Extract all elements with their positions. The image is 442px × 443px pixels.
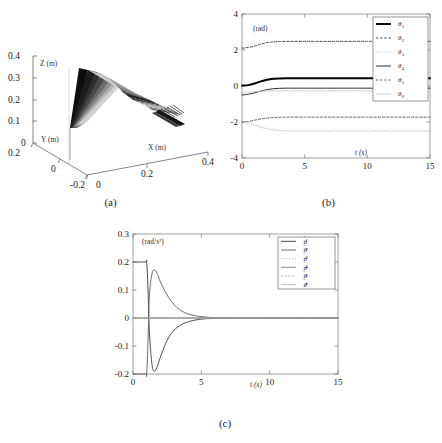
y-tick-label: -4 (231, 153, 239, 163)
panel-a-y-axis-label: Y (m) (41, 135, 59, 144)
figure-root: 0.4 0.3 0.2 0.1 0 Z (m) 0.2 0 -0.2 Y (m)… (0, 0, 442, 443)
panel-a-z-tick-2: 0.2 (8, 95, 20, 105)
x-tick-label: 5 (199, 377, 204, 387)
panel-a-z-tick-0: 0.4 (8, 51, 20, 61)
x-tick-label: 15 (426, 161, 436, 171)
panel-a-z-tick-3: 0.1 (8, 116, 20, 126)
legend-box (373, 17, 428, 101)
panel-a-x-tick-1: 0.2 (141, 169, 153, 179)
series-line-3 (242, 122, 430, 131)
panel-c-svg: 051015-0.2-0.100.10.20.3θ¨1θ¨2θ¨3θ¨4θ¨5θ… (100, 214, 350, 419)
y-tick-label: 0 (125, 313, 130, 323)
y-tick-label: 2 (234, 45, 239, 55)
panel-c-unit-label: (rad/s²) (142, 237, 164, 246)
y-tick-label: -0.2 (115, 369, 129, 379)
panel-a-y-tick-0: 0.2 (8, 148, 20, 158)
y-tick-label: 0.1 (118, 285, 129, 295)
y-tick-label: 0.3 (118, 229, 130, 239)
panel-c-joint-accelerations-plot: 051015-0.2-0.100.10.20.3θ¨1θ¨2θ¨3θ¨4θ¨5θ… (100, 214, 350, 443)
panel-a-x-tick-2: 0.4 (202, 157, 214, 167)
panel-a-z-tick-4: 0 (21, 138, 26, 148)
panel-a-z-tick-1: 0.3 (8, 73, 20, 83)
y-tick-label: 4 (234, 9, 239, 19)
y-tick-label: 0 (234, 81, 239, 91)
series-line-5 (242, 117, 430, 122)
x-tick-label: 0 (240, 161, 245, 171)
x-tick-label: 15 (334, 377, 344, 387)
manipulator-trace (70, 68, 185, 160)
x-tick-label: 10 (363, 161, 373, 171)
panel-a-3d-plot: 0.4 0.3 0.2 0.1 0 Z (m) 0.2 0 -0.2 Y (m)… (0, 0, 221, 221)
panel-b-caption: (b) (215, 196, 442, 208)
panel-c-caption: (c) (100, 417, 350, 429)
x-tick-label: 10 (265, 377, 275, 387)
panel-b-x-axis-label: t (s) (355, 148, 367, 157)
panel-c-x-axis-label: t (s) (250, 380, 262, 389)
x-tick-label: 0 (131, 377, 136, 387)
z-ticks (33, 56, 37, 143)
panel-a-x-tick-0: 0 (96, 180, 101, 190)
axis-frame-3d (33, 56, 208, 175)
panel-a-z-axis-label: Z (m) (40, 59, 57, 68)
panel-a-y-tick-2: -0.2 (70, 180, 85, 190)
x-tick-label: 5 (302, 161, 307, 171)
panel-b-joint-angles-plot: 051015-4-2024θ1θ2θ3θ4θ5θ6 (rad) t (s) (b… (215, 0, 442, 221)
panel-b-unit-label: (rad) (253, 24, 268, 33)
panel-a-x-axis-label: X (m) (148, 143, 166, 152)
y-tick-label: -2 (231, 117, 239, 127)
y-ticks (31, 143, 87, 179)
panel-a-caption: (a) (0, 196, 221, 208)
panel-b-svg: 051015-4-2024θ1θ2θ3θ4θ5θ6 (215, 0, 442, 200)
panel-a-svg (0, 0, 221, 200)
panel-a-y-tick-1: 0 (51, 164, 56, 174)
y-tick-label: 0.2 (118, 257, 129, 267)
y-tick-label: -0.1 (115, 341, 129, 351)
